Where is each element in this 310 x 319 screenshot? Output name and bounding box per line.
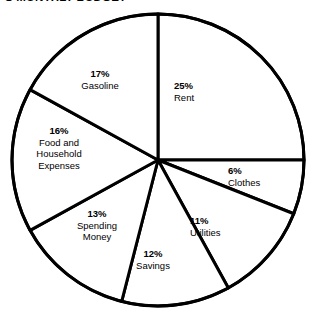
slice-percent-spending-money: 13%	[58, 208, 136, 220]
slice-label-savings: 12% Savings	[118, 248, 188, 271]
slice-label-rent: 25% Rent	[174, 80, 230, 103]
slice-name-spending-money: Spending Money	[58, 220, 136, 243]
slice-name-utilities: Utilities	[190, 227, 252, 239]
slice-label-gasoline: 17% Gasoline	[62, 68, 138, 91]
slice-name-rent: Rent	[174, 92, 230, 104]
slice-label-clothes: 6% Clothes	[228, 165, 290, 188]
slice-percent-rent: 25%	[174, 80, 230, 92]
slice-percent-food-and-household-expenses: 16%	[12, 125, 106, 137]
slice-label-utilities: 11% Utilities	[190, 215, 252, 238]
slice-name-savings: Savings	[118, 260, 188, 272]
slice-percent-gasoline: 17%	[62, 68, 138, 80]
slice-name-gasoline: Gasoline	[62, 80, 138, 92]
slice-name-clothes: Clothes	[228, 177, 290, 189]
pie-chart-figure: 'S MONTHLY BUDGET 25% Rent 6% Clothes 11…	[0, 0, 310, 319]
slice-label-spending-money: 13% Spending Money	[58, 208, 136, 243]
slice-name-food-and-household-expenses: Food and Household Expenses	[12, 137, 106, 172]
slice-percent-utilities: 11%	[190, 215, 252, 227]
slice-label-food-and-household-expenses: 16% Food and Household Expenses	[12, 125, 106, 171]
slice-percent-clothes: 6%	[228, 165, 290, 177]
slice-percent-savings: 12%	[118, 248, 188, 260]
